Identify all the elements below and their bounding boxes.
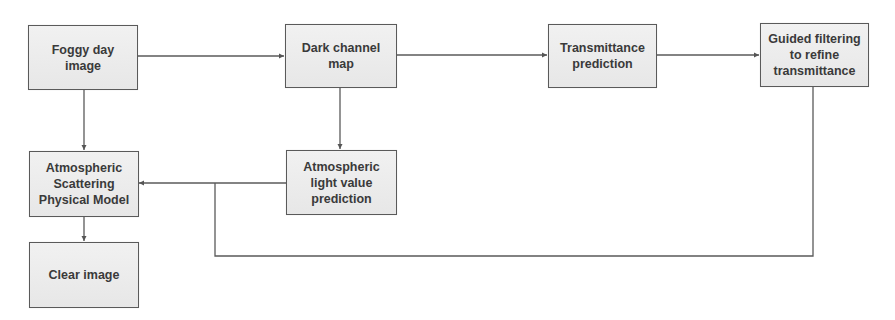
node-label: Atmospheric Scattering Physical Model <box>32 160 136 208</box>
node-atmospheric-scattering-model: Atmospheric Scattering Physical Model <box>29 151 139 217</box>
node-guided-filtering: Guided filtering to refine transmittance <box>760 23 869 87</box>
node-clear-image: Clear image <box>29 242 139 308</box>
node-atmospheric-light-prediction: Atmospheric light value prediction <box>286 150 397 215</box>
node-foggy-day-image: Foggy day image <box>28 25 138 90</box>
node-label: Foggy day image <box>32 42 134 74</box>
node-label: Guided filtering to refine transmittance <box>765 31 864 79</box>
node-label: Transmittance prediction <box>552 40 653 72</box>
node-label: Clear image <box>49 267 120 283</box>
node-label: Dark channel map <box>300 40 382 72</box>
node-transmittance-prediction: Transmittance prediction <box>548 24 657 88</box>
node-dark-channel-map: Dark channel map <box>285 24 397 88</box>
node-label: Atmospheric light value prediction <box>299 159 384 207</box>
